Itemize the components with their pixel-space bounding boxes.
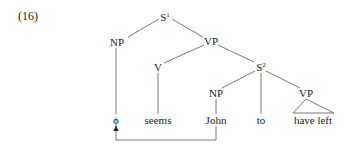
leaf-empty: ϕ	[113, 114, 119, 126]
leaf-have-left: have left	[294, 114, 332, 126]
node-vp-right: VP	[299, 87, 313, 99]
node-s2: S2	[256, 59, 266, 73]
node-vp-top: VP	[204, 35, 218, 47]
tree-lines	[0, 0, 353, 150]
leaf-seems: seems	[145, 114, 172, 126]
leaf-to: to	[257, 114, 266, 126]
leaf-john: John	[206, 114, 227, 126]
node-np-left: NP	[110, 36, 124, 48]
node-s1: S1	[160, 9, 170, 23]
node-np-john: NP	[209, 87, 223, 99]
node-v: V	[154, 61, 162, 73]
